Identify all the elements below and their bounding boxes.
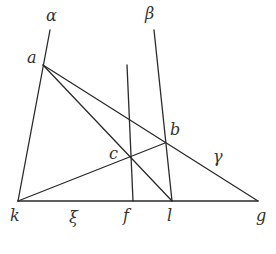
label-alpha: α: [46, 8, 57, 24]
label-point-k: k: [10, 208, 20, 224]
label-point-b: b: [170, 122, 180, 138]
line-gamma-ag: [43, 65, 258, 201]
line-al: [43, 65, 172, 201]
label-point-g: g: [256, 208, 266, 224]
diagram-canvas: α β a b c γ k ξ f l g: [0, 0, 276, 254]
line-beta: [154, 30, 172, 201]
label-point-f: f: [123, 208, 129, 224]
label-point-l: l: [167, 208, 172, 224]
line-kb: [18, 143, 165, 201]
line-f-vertical: [127, 65, 133, 201]
label-beta: β: [145, 6, 154, 22]
label-gamma: γ: [213, 149, 223, 165]
diagram-lines: [0, 0, 276, 254]
label-point-a: a: [27, 50, 37, 66]
label-point-c: c: [109, 146, 118, 162]
label-xi: ξ: [69, 210, 78, 226]
